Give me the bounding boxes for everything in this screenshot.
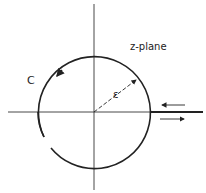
- contour-circle-upper: [38, 112, 44, 137]
- contour-label: C: [27, 74, 35, 87]
- contour-diagram: z-plane C ε: [0, 0, 206, 193]
- radius-label: ε: [113, 89, 118, 100]
- plane-label: z-plane: [130, 41, 167, 52]
